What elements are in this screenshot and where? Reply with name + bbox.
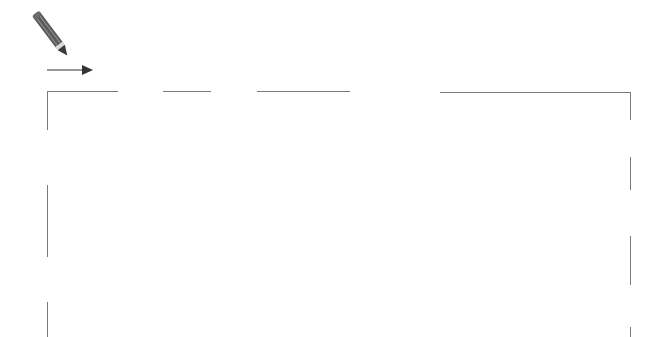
arrow-right-icon[interactable]: [44, 63, 96, 77]
frame-top-segment: [163, 91, 211, 92]
frame-top-segment: [440, 92, 631, 93]
frame-left-segment: [47, 185, 48, 257]
frame-right-segment: [630, 327, 631, 337]
frame-right-segment: [630, 157, 631, 190]
frame-top-segment: [257, 91, 350, 92]
pencil-icon[interactable]: [30, 8, 74, 62]
frame-left-segment: [47, 91, 48, 130]
frame-left-segment: [47, 302, 48, 337]
frame-top-segment: [47, 91, 118, 92]
frame-right-segment: [630, 92, 631, 120]
drawing-canvas[interactable]: [0, 0, 651, 337]
frame-right-segment: [630, 236, 631, 285]
